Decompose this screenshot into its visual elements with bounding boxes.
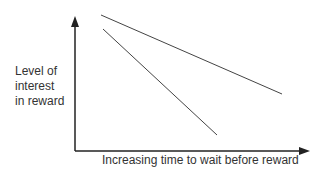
y-axis-arrow-icon [71, 16, 79, 27]
x-axis-label: Increasing time to wait before reward [102, 153, 299, 167]
y-axis-label: Level of interest in reward [15, 64, 64, 109]
y-label-line-3: in reward [15, 94, 64, 109]
line-steep [103, 29, 217, 135]
line-shallow [101, 15, 282, 94]
y-label-line-2: interest [15, 79, 64, 94]
y-label-line-1: Level of [15, 64, 64, 79]
x-axis-arrow-icon [299, 147, 310, 155]
